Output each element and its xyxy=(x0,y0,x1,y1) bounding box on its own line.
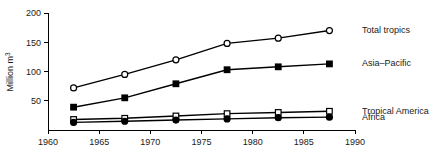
x-tick-label: 1990 xyxy=(345,137,365,147)
chart-legend: Total tropicsAsia–PacificTropical Americ… xyxy=(362,25,429,122)
data-point-marker xyxy=(122,71,128,77)
data-point-marker xyxy=(326,114,332,120)
legend-item-3: Africa xyxy=(362,112,385,122)
x-tick-label: 1960 xyxy=(38,137,58,147)
data-point-marker xyxy=(71,104,77,110)
series-1 xyxy=(71,61,332,110)
legend-label: Asia–Pacific xyxy=(362,58,412,68)
series-3 xyxy=(71,114,333,125)
chart-canvas: 50100150200 1960196519701975198019851990… xyxy=(0,0,437,155)
series-line xyxy=(74,31,330,88)
series-0 xyxy=(71,28,333,91)
data-point-marker xyxy=(224,40,230,46)
data-point-marker xyxy=(173,81,179,87)
legend-item-0: Total tropics xyxy=(362,25,411,35)
legend-label: Total tropics xyxy=(362,25,411,35)
legend-item-1: Asia–Pacific xyxy=(362,58,412,68)
data-point-marker xyxy=(122,118,128,124)
x-tick-label: 1970 xyxy=(140,137,160,147)
y-axis-title: Million m3 xyxy=(4,52,16,92)
data-point-marker xyxy=(327,108,333,114)
data-point-marker xyxy=(224,116,230,122)
x-tick-label: 1985 xyxy=(294,137,314,147)
data-point-marker xyxy=(71,85,77,91)
y-tick-label: 200 xyxy=(26,8,41,18)
y-tick-label: 50 xyxy=(31,96,41,106)
data-point-marker xyxy=(327,61,333,67)
data-point-marker xyxy=(173,117,179,123)
series-line xyxy=(74,64,330,107)
data-point-marker xyxy=(224,67,230,73)
data-point-marker xyxy=(275,35,281,41)
data-point-marker xyxy=(326,28,332,34)
y-tick-label: 150 xyxy=(26,38,41,48)
x-tick-label: 1975 xyxy=(191,137,211,147)
data-point-marker xyxy=(275,115,281,121)
x-tick-label: 1965 xyxy=(89,137,109,147)
series-2 xyxy=(71,108,332,122)
y-axis-title-text: Million m3 xyxy=(4,52,16,92)
data-point-marker xyxy=(122,95,128,101)
y-axis: 50100150200 xyxy=(26,8,48,130)
x-axis: 1960196519701975198019851990 xyxy=(38,130,365,147)
data-point-marker xyxy=(71,119,77,125)
series-layer xyxy=(71,28,333,126)
x-tick-label: 1980 xyxy=(243,137,263,147)
line-chart: 50100150200 1960196519701975198019851990… xyxy=(0,0,437,155)
data-point-marker xyxy=(173,57,179,63)
data-point-marker xyxy=(275,64,281,70)
legend-label: Africa xyxy=(362,112,385,122)
y-tick-label: 100 xyxy=(26,67,41,77)
